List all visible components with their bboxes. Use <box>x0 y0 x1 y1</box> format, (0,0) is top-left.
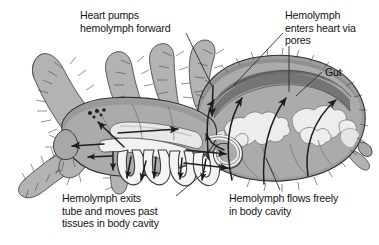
label-gut: Gut <box>325 66 342 79</box>
label-hemolymph-exits-tube: Hemolymph exitstube and moves pasttissue… <box>62 192 159 230</box>
label-heart-pumps-hemolymph-forward: Heart pumpshemolymph forward <box>80 9 170 34</box>
flow-arrow-out-of-head-2 <box>88 156 112 157</box>
diagram-canvas: Heart pumpshemolymph forward Hemolymphen… <box>0 0 379 245</box>
label-hemolymph-enters-heart-via-pores: Hemolymphenters heart viapores <box>285 9 356 47</box>
label-hemolymph-flows-freely: Hemolymph flows freelyin body cavity <box>229 192 338 217</box>
